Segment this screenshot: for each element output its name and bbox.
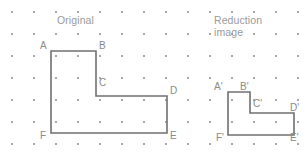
- vertex-label-e: E: [170, 131, 177, 141]
- vertex-label-f: F: [40, 131, 46, 141]
- vertex-label-b: B: [99, 41, 106, 51]
- vertex-label-a: A: [40, 41, 47, 51]
- vertex-label-f-prime: F': [216, 133, 224, 143]
- vertex-label-c-prime: C': [253, 99, 262, 109]
- caption-original: Original: [57, 15, 94, 27]
- original-polygon: [51, 51, 167, 133]
- vertex-label-b-prime: B': [240, 82, 249, 92]
- vertex-label-e-prime: E': [290, 133, 299, 143]
- vertex-label-a-prime: A': [214, 82, 223, 92]
- vertex-label-d-prime: D': [290, 103, 299, 113]
- caption-reduction: Reduction image: [214, 15, 262, 38]
- vertex-label-d: D: [170, 86, 177, 96]
- vertex-label-c: C: [99, 78, 106, 88]
- figure-canvas: Original Reduction image ABCDEFA'B'C'D'E…: [0, 0, 307, 159]
